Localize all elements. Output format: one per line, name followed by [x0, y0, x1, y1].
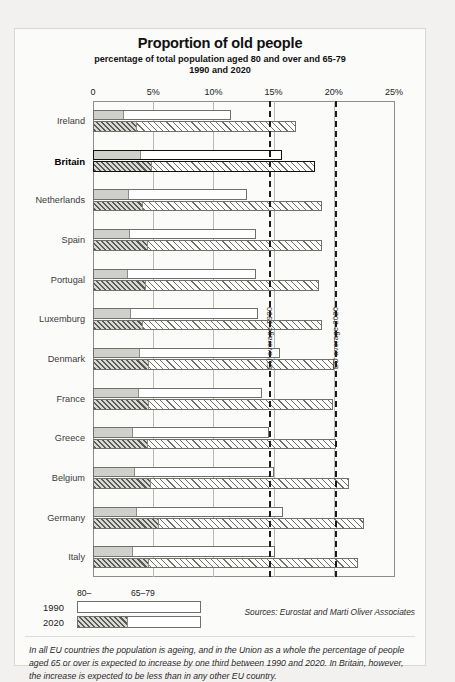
category-label-portugal: Portugal: [15, 275, 85, 285]
bar-2020-ireland: [93, 121, 296, 132]
chart-card: Proportion of old people percentage of t…: [14, 28, 426, 666]
bar-segment-80plus-2020-netherlands: [94, 202, 143, 211]
bar-1990-italy: [93, 546, 275, 557]
bar-1990-britain: [93, 150, 282, 161]
bar-segment-80plus-1990-belgium: [94, 468, 135, 477]
bar-2020-france: [93, 399, 333, 410]
bar-segment-80plus-2020-luxemburg: [94, 321, 143, 330]
bar-segment-80plus-1990-spain: [94, 230, 130, 239]
bar-2020-greece: [93, 439, 336, 450]
bar-1990-france: [93, 388, 262, 399]
bar-segment-80plus-1990-france: [94, 389, 139, 398]
bar-segment-80plus-1990-germany: [94, 508, 137, 517]
bar-1990-belgium: [93, 467, 274, 478]
category-label-spain: Spain: [15, 235, 85, 245]
plot-grid: IrelandBritainNetherlandsSpainPortugalLu…: [15, 101, 427, 577]
x-axis-tick-2: 10%: [204, 87, 222, 97]
bar-segment-80plus-1990-denmark: [94, 349, 140, 358]
chart-page: Proportion of old people percentage of t…: [0, 0, 455, 682]
category-label-britain: Britain: [15, 155, 85, 166]
category-label-luxemburg: Luxemburg: [15, 314, 85, 324]
bar-segment-80plus-1990-italy: [94, 547, 133, 556]
bar-segment-80plus-2020-denmark: [94, 360, 149, 369]
footnote-text: In all EU countries the population is ag…: [29, 644, 411, 682]
bar-1990-netherlands: [93, 189, 247, 200]
bar-2020-britain: [93, 161, 315, 172]
bar-segment-80plus-1990-netherlands: [94, 190, 129, 199]
gridline-25%: [394, 101, 395, 577]
plot-frame-bottom: [93, 576, 394, 577]
bar-segment-80plus-2020-ireland: [94, 122, 137, 131]
bar-segment-80plus-1990-ireland: [94, 111, 124, 120]
bar-segment-80plus-2020-greece: [94, 440, 148, 449]
bar-2020-denmark: [93, 359, 334, 370]
bar-2020-luxemburg: [93, 320, 322, 331]
x-axis-tick-0: 0: [90, 87, 95, 97]
chart-plot-area: 05%10%15%20%25% IrelandBritainNetherland…: [15, 29, 427, 667]
bar-segment-80plus-2020-germany: [94, 519, 159, 528]
bar-2020-netherlands: [93, 201, 322, 212]
bar-segment-80plus-2020-france: [94, 400, 149, 409]
bar-segment-80plus-2020-portugal: [94, 281, 146, 290]
legend-label-6579: 65–79: [131, 588, 155, 598]
bar-segment-80plus-1990-portugal: [94, 270, 128, 279]
bar-1990-portugal: [93, 269, 256, 280]
bar-segment-80plus-2020-spain: [94, 241, 148, 250]
legend-seg-80plus-1990: [78, 602, 128, 612]
bar-2020-spain: [93, 240, 322, 251]
x-axis-ticks: 05%10%15%20%25%: [15, 87, 427, 101]
category-label-italy: Italy: [15, 552, 85, 562]
bar-2020-portugal: [93, 280, 319, 291]
bar-2020-germany: [93, 518, 364, 529]
eu-average-label-2020: EU average 2020: [331, 307, 340, 369]
legend-segment-labels: 80– 65–79: [43, 588, 283, 600]
bar-1990-germany: [93, 507, 283, 518]
bar-2020-italy: [93, 558, 358, 569]
legend-year-1990: 1990: [43, 602, 64, 613]
bar-1990-ireland: [93, 110, 231, 121]
bar-segment-80plus-2020-britain: [94, 162, 152, 171]
bar-1990-greece: [93, 427, 269, 438]
legend-bar-1990: [77, 601, 201, 613]
sources-text: Sources: Eurostat and Marti Oliver Assoc…: [220, 607, 415, 617]
x-axis-tick-5: 25%: [385, 87, 403, 97]
category-label-germany: Germany: [15, 513, 85, 523]
legend-row-2020: 2020: [43, 616, 283, 630]
legend-seg-80plus-2020: [78, 617, 128, 627]
bar-1990-spain: [93, 229, 256, 240]
bar-1990-luxemburg: [93, 308, 258, 319]
category-label-greece: Greece: [15, 433, 85, 443]
x-axis-tick-3: 15%: [265, 87, 283, 97]
category-label-denmark: Denmark: [15, 354, 85, 364]
bar-1990-denmark: [93, 348, 280, 359]
category-label-netherlands: Netherlands: [15, 195, 85, 205]
category-label-france: France: [15, 394, 85, 404]
bar-segment-80plus-1990-britain: [94, 151, 141, 160]
bar-segment-80plus-2020-italy: [94, 559, 149, 568]
x-axis-tick-4: 20%: [325, 87, 343, 97]
bar-segment-80plus-1990-luxemburg: [94, 309, 131, 318]
plot-frame-top: [93, 101, 394, 102]
bar-segment-80plus-2020-belgium: [94, 479, 151, 488]
bar-2020-belgium: [93, 478, 349, 489]
eu-average-label-1990: EU average 1990: [265, 307, 274, 369]
category-label-ireland: Ireland: [15, 116, 85, 126]
category-label-belgium: Belgium: [15, 473, 85, 483]
legend-label-80plus: 80–: [77, 588, 91, 598]
footnote-divider: [25, 636, 415, 637]
x-axis-tick-1: 5%: [147, 87, 160, 97]
bar-segment-80plus-1990-greece: [94, 428, 133, 437]
legend-bar-2020: [77, 616, 201, 628]
legend-year-2020: 2020: [43, 617, 64, 628]
